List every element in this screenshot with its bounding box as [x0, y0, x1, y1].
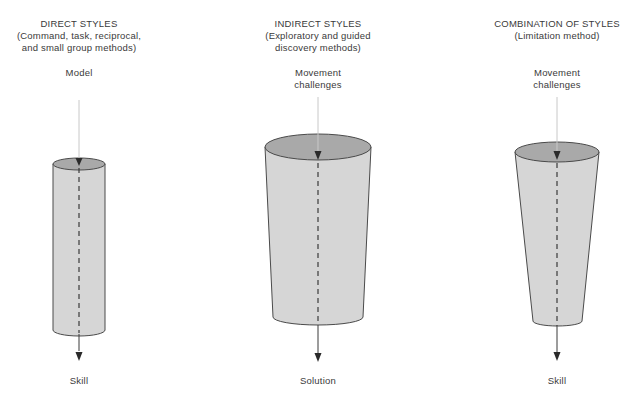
direct-styles-output-arrowhead — [76, 352, 83, 361]
diagram-canvas — [0, 0, 640, 396]
combination-styles-output-arrowhead — [554, 352, 561, 361]
direct-styles-cylinder — [53, 158, 105, 336]
indirect-styles-output-arrowhead — [315, 353, 322, 362]
